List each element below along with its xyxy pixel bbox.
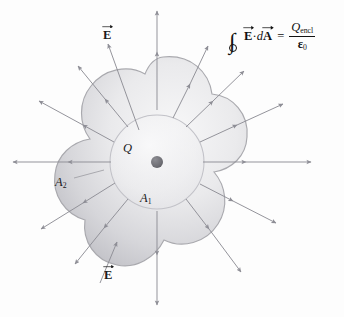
equation-left-side: E ·d A [244,30,272,43]
equation-denominator: ε0 [289,37,315,52]
e-field-label-top: E [103,28,111,43]
inner-surface-label-text: A [140,191,148,205]
outer-surface-label-subscript: 2 [63,181,67,190]
charge-label: Q [123,141,132,156]
e-field-label-bottom: E [104,268,112,283]
gauss-law-equation: ∫ E ·d A = Qencl ε0 [229,21,315,52]
vector-arrow-accent-icon [102,24,113,29]
equation-e-vector: E [244,29,252,43]
equation-numerator: Qencl [289,21,315,37]
e-field-label-bottom-text: E [104,268,112,282]
e-field-label-top-text: E [103,28,111,42]
outer-surface-label-text: A [55,175,63,189]
equation-area-vector: A [263,29,272,43]
inner-surface-label: A1 [140,191,152,206]
vector-arrow-accent-icon [103,264,114,269]
outer-surface-label: A2 [55,175,67,190]
equation-fraction: Qencl ε0 [289,21,315,52]
inner-surface-label-subscript: 1 [148,197,152,206]
vector-arrow-accent-icon [262,25,274,30]
point-charge-dot [151,156,163,168]
vector-arrow-accent-icon [243,25,254,30]
equation-equals-sign: = [277,30,284,43]
